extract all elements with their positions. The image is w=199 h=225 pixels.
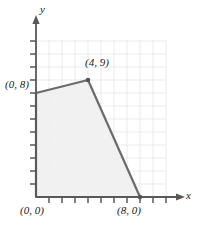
vertex-label-x-intercept: (8, 0) <box>117 205 141 216</box>
vertex-label-apex: (4, 9) <box>85 57 109 68</box>
vertex-label-origin: (0, 0) <box>20 205 44 216</box>
x-axis-label: x <box>186 190 191 201</box>
vertex-label-y-intercept: (0, 8) <box>5 79 29 90</box>
y-axis-label: y <box>40 4 45 15</box>
coordinate-plane-figure <box>0 0 199 225</box>
feasible-region-polygon <box>36 80 140 197</box>
vertex-dot-apex <box>86 78 91 83</box>
vertex-dot-x-intercept <box>138 195 143 200</box>
